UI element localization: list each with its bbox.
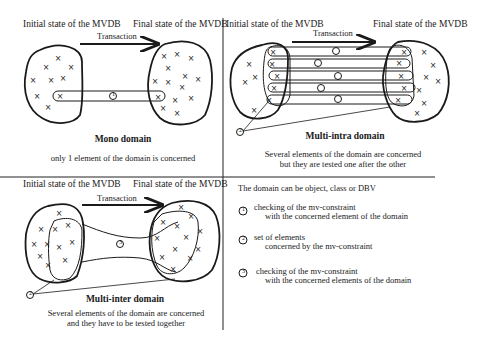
svg-text:×: × (435, 77, 442, 86)
svg-text:×: × (152, 77, 159, 86)
svg-text:×: × (62, 256, 69, 265)
multi-inter-marker-2: 2 (27, 290, 34, 296)
svg-text:×: × (57, 92, 64, 101)
svg-text:×: × (271, 84, 278, 93)
svg-text:×: × (182, 72, 189, 81)
multi-inter-title: Multi-inter domain (60, 294, 190, 304)
svg-text:×: × (174, 222, 181, 231)
svg-text:×: × (421, 48, 428, 57)
svg-text:×: × (178, 203, 185, 212)
svg-text:×: × (55, 54, 62, 63)
svg-text:×: × (52, 225, 59, 234)
multi-intra-caption-line2: but they are tested one after the other (250, 159, 436, 169)
svg-text:×: × (154, 234, 161, 243)
svg-text:×: × (165, 64, 172, 73)
svg-text:×: × (396, 59, 403, 68)
multi-intra-transaction-label: Transaction (313, 28, 353, 38)
mono-final-label: Final state of the MVDB (133, 19, 227, 29)
multi-inter-caption-line1: Several elements of the domain are conce… (28, 308, 224, 318)
svg-text:×: × (188, 54, 195, 63)
svg-text:×: × (174, 50, 181, 59)
svg-text:×: × (48, 76, 55, 85)
svg-text:×: × (183, 233, 190, 242)
svg-text:×: × (197, 227, 204, 236)
svg-text:×: × (161, 52, 168, 61)
svg-text:×: × (44, 240, 51, 249)
svg-text:×: × (270, 48, 277, 57)
svg-text:×: × (179, 83, 186, 92)
multi-inter-final-label: Final state of the MVDB (133, 179, 227, 189)
svg-text:×: × (414, 109, 421, 118)
legend-marker-3: 3 (240, 268, 247, 274)
legend-item-3-line2: with the concerned elements of the domai… (265, 275, 411, 285)
svg-text:×: × (172, 96, 179, 105)
svg-text:×: × (430, 61, 437, 70)
svg-text:×: × (246, 60, 253, 69)
mono-elements: ××× ××× ××× ××× ××× ××× ××× ×× (30, 50, 202, 118)
legend-item-1-line2: with the concerned element of the domain (265, 211, 408, 221)
svg-text:×: × (31, 240, 38, 249)
svg-text:×: × (421, 99, 428, 108)
multi-inter-caption-line2: and they have to be tested together (28, 318, 224, 328)
svg-text:×: × (34, 92, 41, 101)
multi-inter-initial-label: Initial state of the MVDB (23, 179, 121, 189)
svg-text:×: × (60, 74, 67, 83)
svg-text:×: × (155, 93, 162, 102)
svg-text:×: × (188, 212, 195, 221)
legend-heading: The domain can be object, class or DBV (238, 183, 376, 193)
svg-text:×: × (174, 109, 181, 118)
legend-marker-2: 2 (240, 235, 247, 241)
svg-text:×: × (38, 225, 45, 234)
multi-intra-final-label: Final state of the MVDB (373, 19, 467, 29)
svg-text:×: × (160, 218, 167, 227)
svg-text:×: × (172, 245, 179, 254)
multi-intra-title: Multi-intra domain (280, 131, 410, 141)
multi-inter-marker-3: 3 (117, 239, 124, 245)
legend-marker-1: 1 (240, 206, 247, 212)
svg-text:×: × (195, 245, 202, 254)
multi-intra-initial-label: Initial state of the MVDB (226, 19, 324, 29)
multi-intra-caption-line1: Several elements of the domain are conce… (250, 149, 436, 159)
svg-text:×: × (69, 238, 76, 247)
svg-text:×: × (423, 73, 430, 82)
svg-text:×: × (251, 106, 258, 115)
multi-inter-transaction-label: Transaction (97, 193, 137, 203)
svg-text:×: × (56, 243, 63, 252)
mono-title: Mono domain (60, 134, 186, 144)
svg-text:×: × (252, 73, 259, 82)
svg-text:×: × (45, 103, 52, 112)
svg-text:×: × (45, 261, 52, 270)
svg-text:×: × (30, 76, 37, 85)
svg-text:×: × (187, 254, 194, 263)
multi-intra-marker-2: 2 (237, 127, 244, 133)
svg-text:×: × (269, 60, 276, 69)
mono-marker-1: 1 (110, 91, 117, 97)
svg-text:×: × (401, 48, 408, 57)
mono-transaction-label: Transaction (97, 31, 137, 41)
svg-text:×: × (160, 104, 167, 113)
svg-text:×: × (65, 221, 72, 230)
svg-text:×: × (266, 96, 273, 105)
svg-text:×: × (195, 75, 202, 84)
mono-caption: only 1 element of the domain is concerne… (40, 153, 206, 163)
svg-text:×: × (56, 209, 63, 218)
svg-text:×: × (395, 96, 402, 105)
svg-text:×: × (188, 94, 195, 103)
svg-text:×: × (37, 252, 44, 261)
svg-text:×: × (43, 63, 50, 72)
svg-text:×: × (242, 78, 249, 87)
svg-text:×: × (159, 253, 166, 262)
svg-text:×: × (401, 84, 408, 93)
svg-text:×: × (170, 265, 177, 274)
svg-text:×: × (416, 86, 423, 95)
svg-text:×: × (398, 72, 405, 81)
svg-text:×: × (68, 63, 75, 72)
svg-text:×: × (165, 78, 172, 87)
mono-initial-label: Initial state of the MVDB (23, 19, 121, 29)
legend-markers (239, 207, 247, 277)
legend-item-2-line2: concerned by the mv-constraint (265, 241, 372, 251)
svg-text:×: × (274, 72, 281, 81)
